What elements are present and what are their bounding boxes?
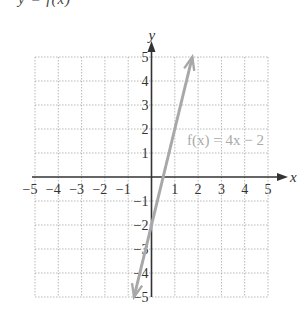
svg-text:1: 1 <box>171 182 178 197</box>
svg-text:−4: −4 <box>46 182 61 197</box>
svg-text:1: 1 <box>142 146 149 161</box>
x-axis-label: x <box>289 169 297 185</box>
svg-text:−5: −5 <box>23 182 38 197</box>
svg-text:2: 2 <box>142 122 149 137</box>
y-axis-label: y <box>147 27 156 43</box>
svg-text:−1: −1 <box>134 194 149 209</box>
svg-text:3: 3 <box>142 98 149 113</box>
svg-text:−2: −2 <box>92 182 107 197</box>
svg-text:5: 5 <box>142 50 149 65</box>
function-label: f(x) = 4x − 2 <box>187 132 264 149</box>
svg-text:4: 4 <box>142 74 149 89</box>
svg-text:−3: −3 <box>69 182 84 197</box>
axes <box>32 41 288 297</box>
svg-text:2: 2 <box>195 182 202 197</box>
function-graph: −5−4−3−2−11234554321−1−2−3−4−5 f(x) = 4x… <box>0 0 308 321</box>
svg-text:4: 4 <box>241 182 248 197</box>
svg-text:3: 3 <box>218 182 225 197</box>
svg-text:−1: −1 <box>116 182 131 197</box>
svg-text:5: 5 <box>265 182 272 197</box>
svg-text:−2: −2 <box>134 218 149 233</box>
